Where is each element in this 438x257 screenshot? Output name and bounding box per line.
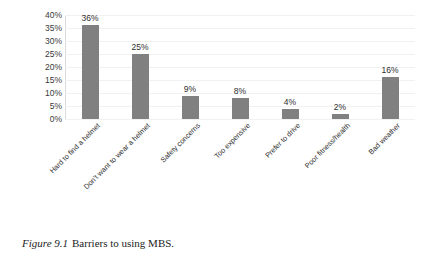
y-axis-tick-label: 30%: [2, 37, 62, 46]
figure-block: 0%5%10%15%20%25%30%35%40% 36%25%9%8%4%2%…: [0, 0, 438, 257]
plot-area: 36%25%9%8%4%2%16%: [65, 15, 415, 119]
x-axis-category-label: Poor fitness/health: [304, 121, 353, 170]
y-axis-tick-label: 15%: [2, 76, 62, 85]
bar[interactable]: [332, 114, 349, 119]
bar[interactable]: [382, 77, 399, 119]
figure-number: Figure 9.1: [22, 237, 68, 249]
y-axis-tick-label: 25%: [2, 50, 62, 59]
bar-value-label: 25%: [115, 42, 165, 52]
bar-group[interactable]: 36%: [65, 15, 115, 119]
x-axis-category-label: Bad weather: [367, 121, 402, 156]
bar-group[interactable]: 8%: [215, 15, 265, 119]
y-axis-tick-label: 40%: [2, 11, 62, 20]
x-axis-category-label: Prefer to drive: [264, 121, 303, 160]
bar-value-label: 36%: [65, 13, 115, 23]
bar-group[interactable]: 9%: [165, 15, 215, 119]
bar[interactable]: [232, 98, 249, 119]
x-axis-category-label: Safety concerns: [159, 121, 202, 164]
bar-group[interactable]: 4%: [265, 15, 315, 119]
figure-caption: Figure 9.1Barriers to using MBS.: [22, 236, 174, 250]
bar[interactable]: [82, 25, 99, 119]
bar-value-label: 9%: [165, 84, 215, 94]
y-axis-tick-label: 5%: [2, 102, 62, 111]
y-axis-tick-label: 20%: [2, 63, 62, 72]
bar-group[interactable]: 16%: [365, 15, 415, 119]
bar-group[interactable]: 25%: [115, 15, 165, 119]
x-axis-category-labels: Hard to find a helmetDon't want to wear …: [65, 121, 415, 225]
bar-value-label: 16%: [365, 65, 415, 75]
x-axis-category-label: Too expensive: [213, 121, 252, 160]
bar-chart: 0%5%10%15%20%25%30%35%40% 36%25%9%8%4%2%…: [0, 0, 438, 225]
figure-caption-text: Barriers to using MBS.: [72, 237, 174, 249]
bar-group[interactable]: 2%: [315, 15, 365, 119]
y-axis-tick-labels: 0%5%10%15%20%25%30%35%40%: [0, 15, 62, 119]
bar[interactable]: [282, 109, 299, 119]
y-axis-tick-label: 10%: [2, 89, 62, 98]
bar-value-label: 2%: [315, 102, 365, 112]
x-axis-category-label: Hard to find a helmet: [48, 121, 102, 175]
y-axis-tick-label: 35%: [2, 24, 62, 33]
bar-value-label: 4%: [265, 97, 315, 107]
y-axis-tick-label: 0%: [2, 115, 62, 124]
bar[interactable]: [132, 54, 149, 119]
gridline: [65, 119, 415, 120]
bar-value-label: 8%: [215, 86, 265, 96]
bar[interactable]: [182, 96, 199, 119]
